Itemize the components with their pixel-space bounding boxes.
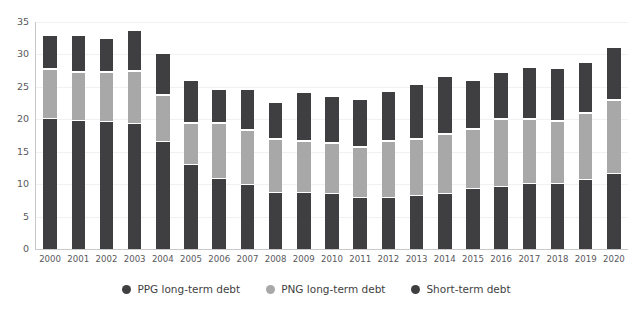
bar-segment[interactable] (410, 84, 424, 140)
bar-segment[interactable] (297, 141, 311, 194)
bar-segment[interactable] (523, 119, 537, 184)
bar-segment[interactable] (325, 194, 339, 249)
bar-group[interactable] (438, 22, 452, 249)
bar-segment[interactable] (184, 165, 198, 249)
legend-item[interactable]: Short-term debt (411, 283, 510, 295)
bar-group[interactable] (466, 22, 480, 249)
bar-segment[interactable] (466, 80, 480, 129)
y-axis-tick-label: 0 (3, 244, 29, 254)
bar-segment[interactable] (353, 147, 367, 198)
bar-group[interactable] (579, 22, 593, 249)
bar-segment[interactable] (297, 193, 311, 249)
bar-segment[interactable] (607, 47, 621, 100)
legend-item[interactable]: PPG long-term debt (122, 283, 240, 295)
bar-segment[interactable] (494, 72, 508, 119)
bar-group[interactable] (353, 22, 367, 249)
bar-segment[interactable] (438, 134, 452, 194)
bar-segment[interactable] (184, 123, 198, 166)
bar-segment[interactable] (128, 30, 142, 70)
bar-segment[interactable] (325, 143, 339, 194)
bar-segment[interactable] (43, 35, 57, 69)
bar-segment[interactable] (523, 67, 537, 119)
bar-segment[interactable] (382, 198, 396, 249)
bar-group[interactable] (43, 22, 57, 249)
bar-segment[interactable] (297, 92, 311, 141)
bar-segment[interactable] (607, 100, 621, 174)
bar-segment[interactable] (156, 53, 170, 95)
bar-group[interactable] (325, 22, 339, 249)
bar-segment[interactable] (579, 113, 593, 179)
bar-segment[interactable] (325, 96, 339, 143)
bar-segment[interactable] (269, 102, 283, 140)
x-axis-tick-label: 2007 (231, 254, 263, 264)
bar-segment[interactable] (43, 69, 57, 120)
bar-segment[interactable] (523, 184, 537, 249)
bar-segment[interactable] (353, 99, 367, 147)
x-axis-tick-label: 2002 (90, 254, 122, 264)
bar-group[interactable] (128, 22, 142, 249)
bar-segment[interactable] (128, 71, 142, 124)
bar-segment[interactable] (579, 62, 593, 113)
bar-segment[interactable] (212, 123, 226, 179)
bar-segment[interactable] (551, 68, 565, 121)
bar-segment[interactable] (466, 189, 480, 249)
legend-swatch-icon (122, 285, 131, 294)
bar-segment[interactable] (353, 198, 367, 249)
bar-segment[interactable] (100, 122, 114, 249)
bar-group[interactable] (156, 22, 170, 249)
bar-segment[interactable] (72, 35, 86, 72)
bar-group[interactable] (382, 22, 396, 249)
bar-segment[interactable] (269, 139, 283, 192)
bar-segment[interactable] (184, 80, 198, 123)
bar-segment[interactable] (494, 119, 508, 186)
bar-segment[interactable] (128, 124, 142, 249)
bar-group[interactable] (72, 22, 86, 249)
bar-segment[interactable] (579, 180, 593, 249)
bar-segment[interactable] (438, 76, 452, 134)
bar-segment[interactable] (410, 139, 424, 195)
bar-segment[interactable] (551, 121, 565, 183)
bar-segment[interactable] (269, 193, 283, 249)
bar-group[interactable] (410, 22, 424, 249)
y-axis-tick-label: 35 (3, 17, 29, 27)
x-axis-tick-label: 2019 (570, 254, 602, 264)
bar-group[interactable] (551, 22, 565, 249)
bar-segment[interactable] (382, 91, 396, 140)
bar-segment[interactable] (212, 179, 226, 249)
bar-group[interactable] (523, 22, 537, 249)
bar-group[interactable] (269, 22, 283, 249)
bar-segment[interactable] (241, 130, 255, 184)
bar-segment[interactable] (494, 187, 508, 249)
bar-segment[interactable] (72, 72, 86, 121)
bar-series-container (36, 22, 628, 249)
bar-segment[interactable] (100, 38, 114, 72)
legend-item[interactable]: PNG long-term debt (266, 283, 385, 295)
bar-segment[interactable] (212, 89, 226, 123)
bar-group[interactable] (212, 22, 226, 249)
bar-segment[interactable] (241, 89, 255, 130)
bar-group[interactable] (241, 22, 255, 249)
bar-group[interactable] (100, 22, 114, 249)
x-axis-tick-label: 2015 (457, 254, 489, 264)
bar-segment[interactable] (241, 185, 255, 249)
bar-group[interactable] (494, 22, 508, 249)
x-axis-tick-label: 2009 (288, 254, 320, 264)
bar-segment[interactable] (72, 121, 86, 249)
bar-group[interactable] (184, 22, 198, 249)
bar-segment[interactable] (156, 95, 170, 142)
bar-segment[interactable] (551, 184, 565, 250)
bar-segment[interactable] (100, 72, 114, 122)
bar-segment[interactable] (410, 196, 424, 249)
bar-segment[interactable] (156, 142, 170, 249)
legend-swatch-icon (411, 285, 420, 294)
bar-segment[interactable] (607, 174, 621, 249)
bar-segment[interactable] (466, 129, 480, 189)
x-axis-tick-label: 2013 (401, 254, 433, 264)
bar-segment[interactable] (438, 194, 452, 249)
bar-group[interactable] (297, 22, 311, 249)
bar-segment[interactable] (382, 141, 396, 198)
x-axis-tick-label: 2005 (175, 254, 207, 264)
bar-segment[interactable] (43, 119, 57, 249)
x-axis-tick-label: 2000 (34, 254, 66, 264)
bar-group[interactable] (607, 22, 621, 249)
